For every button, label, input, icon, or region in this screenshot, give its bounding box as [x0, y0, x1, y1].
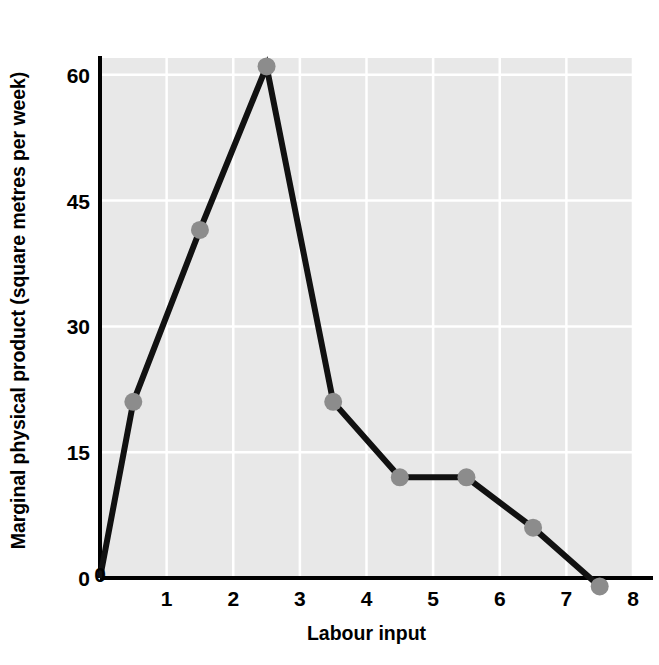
y-tick-label-15: 15 [46, 442, 90, 463]
x-tick-label-1: 1 [152, 588, 182, 609]
data-point-marker [391, 468, 409, 486]
x-tick-label-3: 3 [285, 588, 315, 609]
y-tick-label-30: 30 [46, 316, 90, 337]
x-axis-title: Labour input [100, 622, 633, 645]
y-tick-label-60: 60 [46, 64, 90, 85]
y-tick-label-0: 0 [46, 568, 90, 589]
x-tick-label-8: 8 [618, 588, 648, 609]
x-tick-label-2: 2 [218, 588, 248, 609]
x-tick-label-4: 4 [352, 588, 382, 609]
data-point-marker [457, 468, 475, 486]
y-tick-label-45: 45 [46, 190, 90, 211]
data-point-marker [324, 393, 342, 411]
x-tick-label-0: 0 [85, 564, 115, 585]
x-tick-label-5: 5 [418, 588, 448, 609]
data-point-marker [524, 519, 542, 537]
data-point-marker [591, 577, 609, 595]
data-point-marker [258, 57, 276, 75]
x-tick-label-7: 7 [551, 588, 581, 609]
data-point-marker [124, 393, 142, 411]
chart-figure: Marginal physical product (square metres… [0, 0, 659, 665]
data-point-marker [191, 221, 209, 239]
x-tick-label-6: 6 [485, 588, 515, 609]
